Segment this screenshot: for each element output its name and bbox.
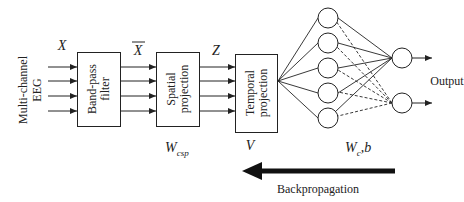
hidden-neuron bbox=[318, 58, 338, 78]
hidden-neuron bbox=[318, 8, 338, 28]
spatial-label-1: Spatial bbox=[164, 72, 178, 106]
spatial-label-2: projection bbox=[177, 65, 191, 114]
backpropagation-arrow bbox=[242, 162, 395, 180]
output-neuron bbox=[392, 93, 412, 113]
input-label-line2: EEG bbox=[30, 78, 44, 102]
band-pass-label-2: filter bbox=[98, 77, 112, 100]
output-label: Output bbox=[430, 74, 464, 88]
param-wc-b: Wc,b bbox=[345, 140, 371, 158]
temporal-projection-block: Temporal projection bbox=[236, 55, 278, 133]
output-to-hidden-backward bbox=[336, 21, 392, 116]
input-arrows bbox=[48, 67, 77, 111]
spatial-projection-block: Spatial projection bbox=[157, 53, 200, 127]
input-label-line1: Multi-channel bbox=[16, 55, 30, 124]
eeg-pipeline-diagram: Multi-channel EEG X Band-pass filter X S… bbox=[0, 0, 464, 202]
param-v: V bbox=[246, 138, 256, 153]
hidden-neuron bbox=[318, 108, 338, 128]
output-arrows bbox=[412, 58, 432, 103]
band-pass-label-1: Band-pass bbox=[85, 64, 99, 114]
output-layer bbox=[392, 48, 412, 113]
output-neuron bbox=[392, 48, 412, 68]
hidden-neuron bbox=[318, 33, 338, 53]
signal-x-bar-label: X bbox=[133, 43, 143, 58]
signal-x-label: X bbox=[57, 38, 67, 53]
param-wcsp: Wcsp bbox=[165, 140, 189, 158]
param-wcsp-sub: csp bbox=[177, 148, 189, 158]
backpropagation-label: Backpropagation bbox=[277, 182, 359, 196]
param-b: ,b bbox=[361, 140, 372, 155]
temporal-label-2: projection bbox=[256, 69, 270, 118]
band-pass-filter-block: Band-pass filter bbox=[78, 53, 121, 127]
hidden-neuron bbox=[318, 83, 338, 103]
filter-to-spatial-arrows bbox=[120, 67, 156, 111]
temporal-to-hidden-connections bbox=[278, 18, 318, 118]
temporal-label-1: Temporal bbox=[243, 69, 257, 115]
hidden-layer bbox=[318, 8, 338, 128]
signal-z-label: Z bbox=[212, 43, 220, 58]
spatial-to-temporal-arrows bbox=[199, 67, 235, 111]
